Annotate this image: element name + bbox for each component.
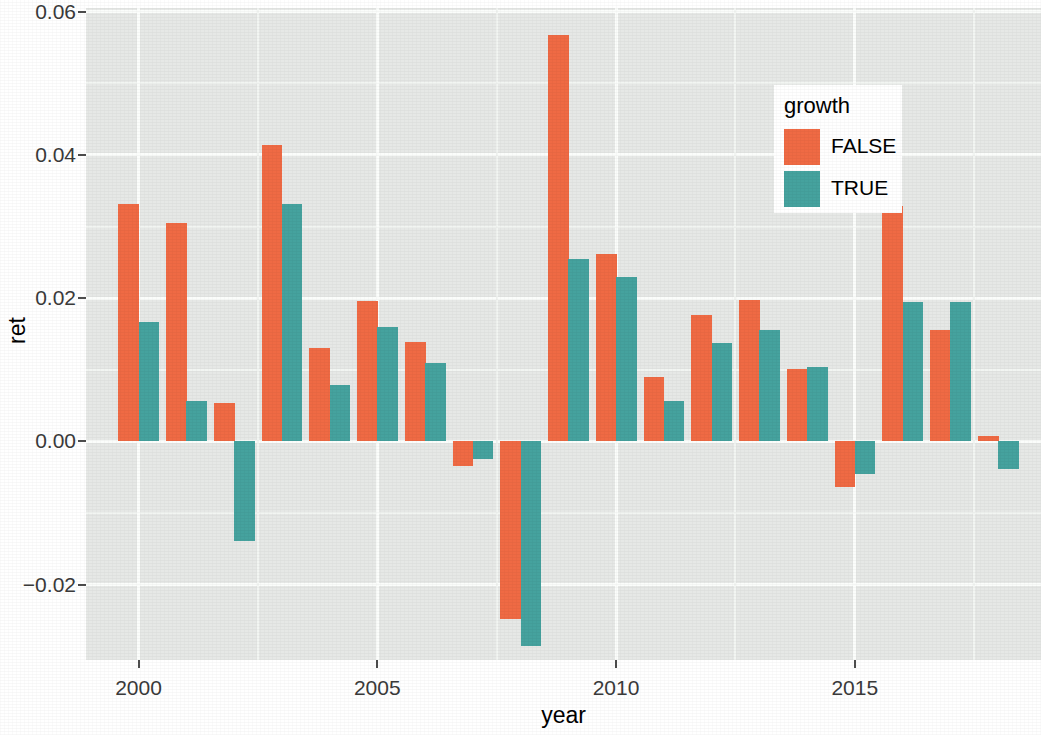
bar <box>691 315 712 441</box>
x-axis-tick-label: 2005 <box>354 676 401 700</box>
bar <box>950 302 971 442</box>
bar <box>405 342 426 442</box>
legend-item-label: FALSE <box>831 134 896 158</box>
y-axis-tick-label: −0.02 <box>0 573 76 597</box>
bar <box>548 35 569 442</box>
legend-title: growth <box>784 93 850 119</box>
bar <box>234 441 255 541</box>
y-axis-tick-labels: 0.060.040.020.00−0.02 <box>0 0 76 735</box>
bar <box>998 441 1019 468</box>
bar <box>882 206 903 442</box>
bar <box>262 145 283 442</box>
plot-panel: growth FALSETRUE <box>86 8 1041 660</box>
bar <box>787 369 808 441</box>
y-axis-tick-label: 0.02 <box>0 286 76 310</box>
bar <box>759 330 780 442</box>
y-axis-tick-mark <box>78 11 86 13</box>
bar <box>357 301 378 441</box>
bar <box>166 223 187 442</box>
x-axis-tick-label: 2015 <box>831 676 878 700</box>
bar <box>309 348 330 441</box>
gridline-minor-vertical <box>734 8 736 660</box>
bar <box>807 367 828 442</box>
legend-item-label: TRUE <box>831 176 888 200</box>
bar <box>377 327 398 442</box>
bar <box>978 436 999 442</box>
bar <box>568 259 589 442</box>
y-axis-tick-label: 0.00 <box>0 429 76 453</box>
x-axis-tick-label: 2000 <box>115 676 162 700</box>
bar <box>453 441 474 465</box>
bar <box>214 403 235 442</box>
legend-swatch-icon <box>784 129 820 165</box>
gridline-minor-vertical <box>973 8 975 660</box>
bar <box>739 300 760 442</box>
bar <box>664 401 685 441</box>
bar <box>186 401 207 441</box>
legend-swatch-icon <box>784 171 820 207</box>
gridline-minor-vertical <box>496 8 498 660</box>
bar <box>616 277 637 441</box>
bar <box>596 254 617 442</box>
x-axis-tick-label: 2010 <box>593 676 640 700</box>
bar <box>139 322 160 442</box>
bar <box>500 441 521 619</box>
legend-item: TRUE <box>784 169 904 209</box>
bar-chart: ret 0.060.040.020.00−0.02 growth FALSETR… <box>0 0 1041 735</box>
bar <box>855 441 876 473</box>
x-axis-tick-mark <box>376 660 378 668</box>
bar <box>330 385 351 442</box>
bar <box>644 377 665 441</box>
x-axis-tick-mark <box>615 660 617 668</box>
bar <box>521 441 542 646</box>
bar <box>473 441 494 459</box>
y-axis-tick-label: 0.06 <box>0 0 76 24</box>
y-axis-tick-mark <box>78 297 86 299</box>
y-axis-tick-mark <box>78 154 86 156</box>
bar <box>282 204 303 441</box>
x-axis-title: year <box>86 702 1041 729</box>
gridline-major-horizontal <box>86 10 1041 13</box>
bar <box>903 302 924 441</box>
gridline-major-horizontal <box>86 583 1041 586</box>
x-axis-tick-mark <box>854 660 856 668</box>
bar <box>712 343 733 442</box>
legend-item: FALSE <box>784 127 904 167</box>
bar <box>930 330 951 441</box>
x-axis-tick-mark <box>138 660 140 668</box>
bar <box>118 204 139 441</box>
bar <box>425 363 446 442</box>
gridline-minor-vertical <box>257 8 259 660</box>
legend: growth FALSETRUE <box>774 85 902 213</box>
gridline-minor-horizontal <box>86 512 1041 514</box>
bar <box>835 441 856 486</box>
x-axis-title-text: year <box>541 702 586 728</box>
y-axis-tick-mark <box>78 440 86 442</box>
y-axis-tick-label: 0.04 <box>0 143 76 167</box>
y-axis-tick-mark <box>78 584 86 586</box>
